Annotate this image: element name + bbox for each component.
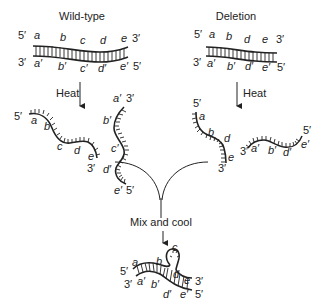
heat-label-del: Heat (243, 87, 266, 99)
het-b-prime: b′ (151, 278, 160, 290)
del-seg-d: d (244, 33, 251, 45)
wt-seg-d: d (100, 34, 107, 46)
wt-top-5prime: 5′ (18, 29, 26, 41)
wt-seg-e-prime: e′ (120, 60, 129, 72)
heat-label-wt: Heat (56, 87, 79, 99)
wt-top-3prime: 3′ (132, 32, 140, 44)
het-a-prime: a′ (137, 275, 146, 287)
wts-a-prime: a′ (113, 92, 122, 104)
wts-e: e (88, 150, 94, 162)
del-seg-d-prime: d′ (245, 60, 254, 72)
wts-d-prime: d′ (103, 163, 112, 175)
wt-bottom-3prime: 3′ (18, 56, 26, 68)
del-bottom-3prime: 3′ (193, 56, 201, 68)
dels-top-5prime: 5′ (193, 97, 201, 109)
wildtype-duplex: Wild-type 5′ a b c d e 3′ 3′ a′ b′ c′ d′… (18, 10, 141, 74)
wt-single-bottom: a′ 3′ b′ c′ d′ e′ 5′ (103, 92, 134, 196)
del-seg-b: b (226, 30, 232, 42)
dels-d: d (224, 132, 231, 144)
dels-top-3prime: 3′ (218, 162, 226, 174)
del-seg-e-prime: e′ (262, 61, 271, 73)
wts-a: a (31, 114, 37, 126)
wts-e-prime: e′ (114, 184, 123, 196)
deletion-title: Deletion (216, 10, 256, 22)
wt-seg-b-prime: b′ (58, 60, 67, 72)
heat-step-wildtype: Heat (56, 82, 80, 106)
heteroduplex-product: a 5′ b c d e 3′ 3′ a′ b′ d′ e′ 5′ (120, 241, 203, 300)
wt-bottom-5prime: 5′ (133, 60, 141, 72)
wt-seg-b: b (60, 31, 66, 43)
dels-bottom-5prime: 5′ (303, 124, 311, 136)
mix-and-cool-step: Mix and cool (115, 162, 208, 243)
wts-top-5prime: 5′ (14, 110, 22, 122)
dels-e-prime: e′ (301, 138, 310, 150)
del-seg-b-prime: b′ (227, 60, 236, 72)
het-d-prime: d′ (163, 288, 172, 300)
heat-step-deletion: Heat (237, 82, 266, 106)
mix-and-cool-label: Mix and cool (130, 216, 192, 228)
dels-b-prime: b′ (268, 144, 277, 156)
del-top-5prime: 5′ (194, 28, 202, 40)
heteroduplex-diagram: Wild-type 5′ a b c d e 3′ 3′ a′ b′ c′ d′… (0, 0, 323, 300)
wts-c-prime: c′ (111, 142, 120, 154)
wt-seg-a-prime: a′ (34, 57, 43, 69)
wt-seg-c-prime: c′ (80, 62, 89, 74)
wts-top-3prime: 3′ (87, 162, 95, 174)
het-bottom-5prime: 5′ (195, 288, 203, 300)
del-top-3prime: 3′ (276, 33, 284, 45)
del-single-bottom: 3′ a′ b′ d′ e′ 5′ (240, 124, 311, 158)
dels-e: e (228, 151, 234, 163)
del-bottom-5prime: 5′ (277, 61, 285, 73)
het-bottom-3prime: 3′ (124, 278, 132, 290)
del-seg-a: a (209, 28, 215, 40)
del-seg-a-prime: a′ (207, 57, 216, 69)
wts-d: d (74, 144, 81, 156)
wt-single-top: 5′ a b c d e 3′ (14, 109, 100, 174)
del-seg-e: e (262, 33, 268, 45)
wts-bottom-5prime: 5′ (126, 184, 134, 196)
dels-a: a (199, 110, 205, 122)
wts-bottom-3prime: 3′ (126, 92, 134, 104)
wts-b-prime: b′ (103, 114, 112, 126)
het-top-3prime: 3′ (195, 275, 203, 287)
wt-seg-e: e (121, 32, 127, 44)
wt-seg-d-prime: d′ (98, 62, 107, 74)
het-top-5prime: 5′ (120, 265, 128, 277)
dels-bottom-3prime: 3′ (240, 145, 248, 157)
wildtype-title: Wild-type (59, 10, 105, 22)
wt-seg-a: a (34, 29, 40, 41)
deletion-duplex: Deletion 5′ a b d e 3′ 3′ a′ b′ d′ e′ 5′ (193, 10, 285, 73)
wt-seg-c: c (80, 34, 86, 46)
